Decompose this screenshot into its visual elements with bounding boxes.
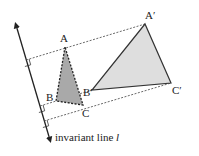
label-b-prime: B′: [83, 86, 93, 98]
invariant-line: [16, 25, 50, 140]
triangle-abc: [56, 47, 83, 105]
invariant-line-variable: l: [116, 131, 119, 143]
invariant-line-label: invariant line l: [55, 131, 119, 143]
label-c: C: [82, 107, 89, 119]
invariant-line-text: invariant line: [55, 131, 116, 143]
shear-diagram: A B C A′ B′ C′ invariant line l: [0, 0, 199, 156]
label-b: B: [46, 91, 53, 103]
triangle-a-prime-b-prime-c-prime: [92, 24, 171, 90]
label-c-prime: C′: [172, 84, 182, 96]
label-a: A: [60, 32, 68, 44]
label-a-prime: A′: [145, 9, 155, 21]
